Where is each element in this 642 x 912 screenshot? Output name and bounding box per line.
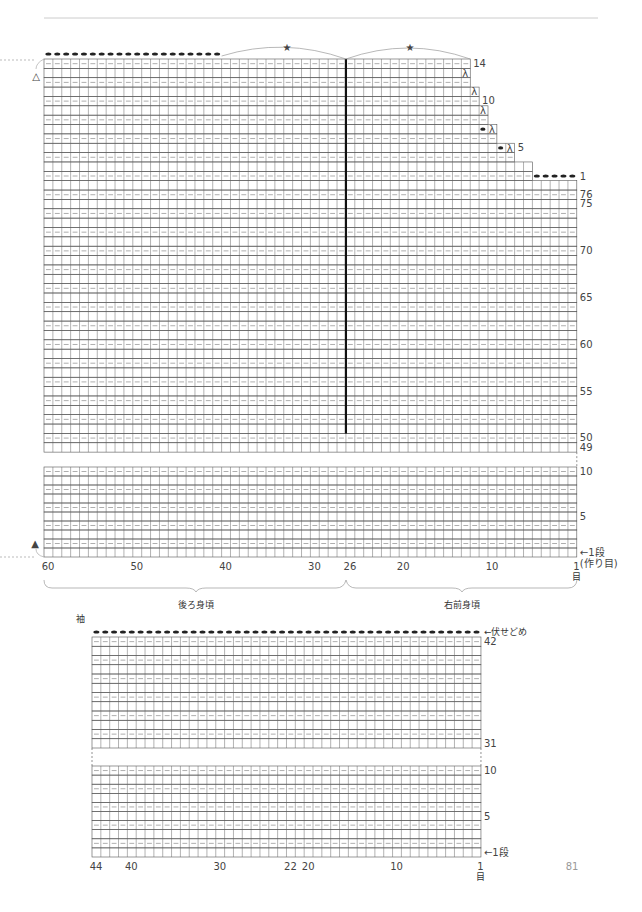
decrease-icon: λ <box>480 105 486 116</box>
open-triangle-icon: △ <box>32 71 40 82</box>
row-label: 60 <box>580 339 593 350</box>
bind-off-dot <box>134 52 140 55</box>
bind-off-dot <box>217 630 223 633</box>
decrease-icon: λ <box>489 124 495 135</box>
bind-off-dot <box>447 630 453 633</box>
decrease-icon: λ <box>462 68 468 79</box>
bind-off-dot <box>81 52 87 55</box>
bind-off-dot <box>534 174 540 177</box>
row-label: 10 <box>482 95 495 106</box>
bind-off-dot <box>253 630 259 633</box>
bind-off-dot <box>359 630 365 633</box>
bind-off-dot <box>403 630 409 633</box>
bind-off-dot <box>456 630 462 633</box>
stitch-label: 44 <box>90 861 103 872</box>
bind-off-dot <box>235 630 241 633</box>
right-front-label: 右前身頃 <box>444 599 480 610</box>
body-top-grid-row <box>44 143 515 152</box>
bind-off-dot <box>120 630 126 633</box>
bind-off-dot <box>226 630 232 633</box>
row-label: 42 <box>484 636 497 647</box>
body-top-grid-row <box>44 125 497 134</box>
row-label: 1 <box>580 171 586 182</box>
first-row-label: ←1段 <box>484 846 509 858</box>
bind-off-dot <box>90 52 96 55</box>
stitch-label: 30 <box>213 861 226 872</box>
bind-off-dot <box>108 52 114 55</box>
bind-off-dot <box>297 630 303 633</box>
body-top-grid-row <box>44 162 532 171</box>
decrease-icon: λ <box>471 86 477 97</box>
back-body-label: 後ろ身頃 <box>178 599 214 610</box>
first-row-label: ←1段 <box>580 546 605 558</box>
bind-off-dot <box>367 630 373 633</box>
bind-off-dot <box>552 174 558 177</box>
bind-off-dot <box>161 52 167 55</box>
bind-off-dot <box>465 630 471 633</box>
stitch-label: 30 <box>308 561 321 572</box>
row-label: 5 <box>580 511 586 522</box>
decrease-icon: λ <box>507 143 513 154</box>
bind-off-dot <box>569 174 575 177</box>
bind-off-dot <box>498 146 503 149</box>
bind-off-dot <box>438 630 444 633</box>
stitch-label: 60 <box>42 561 55 572</box>
stitch-label: 40 <box>219 561 232 572</box>
bind-off-dot <box>54 52 60 55</box>
bind-off-dot <box>420 630 426 633</box>
bind-off-dot <box>182 630 188 633</box>
bind-off-dot <box>412 630 418 633</box>
stitch-label: 40 <box>125 861 138 872</box>
stitch-label: 22 <box>284 861 297 872</box>
knitting-chart: ★★△λλλλλ1410517675706560555049105←1段(作り目… <box>0 0 642 912</box>
bind-off-dot <box>314 630 320 633</box>
row-label: 55 <box>580 386 593 397</box>
row-label: 70 <box>580 245 593 256</box>
bind-off-dot <box>72 52 78 55</box>
bind-off-dot <box>376 630 382 633</box>
bind-off-dot <box>143 52 149 55</box>
stitch-label: 10 <box>486 561 499 572</box>
stitch-unit: 目 <box>572 572 581 582</box>
bind-off-dot <box>152 52 158 55</box>
bind-off-dot <box>63 52 69 55</box>
bind-off-dot <box>288 630 294 633</box>
bind-off-dot <box>560 174 566 177</box>
row-label: 49 <box>580 442 593 453</box>
bind-off-dot <box>196 52 202 55</box>
bind-off-dot <box>179 52 185 55</box>
bind-off-dot <box>138 630 144 633</box>
stitch-label: 10 <box>390 861 403 872</box>
bind-off-dot <box>116 52 122 55</box>
stitch-label: 20 <box>397 561 410 572</box>
bind-off-dot <box>332 630 338 633</box>
bind-off-dot <box>279 630 285 633</box>
bind-off-dot <box>102 630 108 633</box>
bind-off-dot <box>270 630 276 633</box>
row-label: 75 <box>580 198 593 209</box>
bind-off-dot <box>187 52 193 55</box>
bind-off-dot <box>111 630 117 633</box>
bind-off-dot <box>155 630 161 633</box>
stitch-unit: 目 <box>476 872 485 882</box>
bind-off-dot <box>543 174 549 177</box>
bind-off-dot <box>261 630 267 633</box>
bind-off-dot <box>99 52 105 55</box>
bind-off-dot <box>394 630 400 633</box>
row-label: 14 <box>473 58 486 69</box>
bind-off-dot <box>170 52 176 55</box>
bind-off-dot <box>474 630 480 633</box>
bind-off-dot <box>385 630 391 633</box>
filled-triangle-icon: ▲ <box>31 538 39 549</box>
bind-off-dot <box>93 630 99 633</box>
bind-off-dot <box>125 52 131 55</box>
bind-off-dot <box>214 52 220 55</box>
bind-off-dot <box>146 630 152 633</box>
bind-off-dot <box>173 630 179 633</box>
bind-off-dot <box>205 52 211 55</box>
row-label: 5 <box>484 811 490 822</box>
row-label: 5 <box>518 142 524 153</box>
stitch-label: 20 <box>302 861 315 872</box>
bind-off-dot <box>208 630 214 633</box>
bind-off-dot <box>341 630 347 633</box>
